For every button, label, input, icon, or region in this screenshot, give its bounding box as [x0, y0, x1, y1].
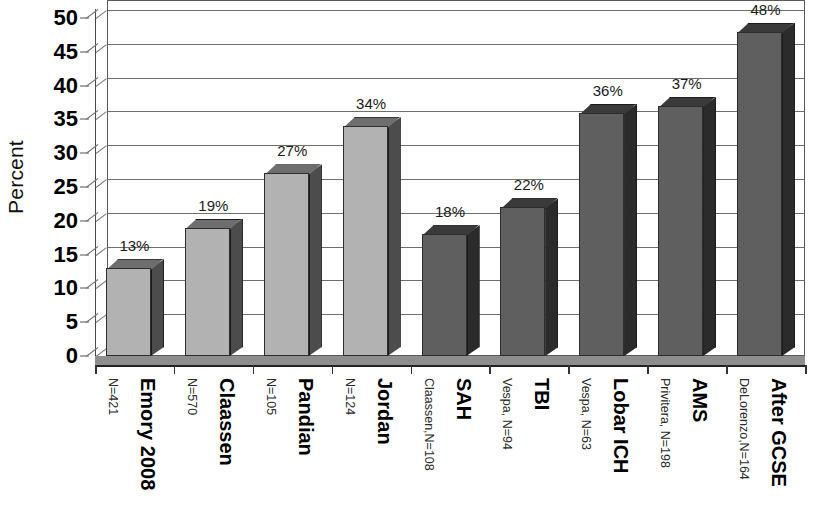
bar-chart: Percent 50454035302520151050 13%19%27%34… [0, 0, 813, 512]
x-category-label-group: N=124Jordan [332, 376, 411, 512]
x-category-label: Lobar ICH [611, 378, 631, 474]
bar [106, 268, 151, 356]
x-category-label: AMS [690, 378, 710, 422]
x-category-label-group: Vespa, N=94TBI [489, 376, 568, 512]
bar-value-label: 13% [94, 237, 175, 254]
x-tick-mark [174, 365, 176, 374]
x-category-label-group: N=421Emory 2008 [95, 376, 174, 512]
x-tick-mark [726, 365, 728, 374]
x-category-label-group: DeLorenzo,N=164After GCSE [726, 376, 805, 512]
y-tick-label: 45 [34, 41, 78, 63]
side-wall-rung [96, 179, 107, 188]
y-tick-label: 25 [34, 176, 78, 198]
side-wall-rung [96, 78, 107, 87]
x-tick-mark [411, 365, 413, 374]
x-category-label: SAH [454, 378, 474, 420]
x-category-label: Jordan [375, 378, 395, 445]
side-wall-rung [96, 112, 107, 121]
x-category-label: Emory 2008 [138, 378, 158, 490]
plot-area: 13%19%27%34%18%22%36%37%48% [95, 9, 805, 365]
bar-front-face [343, 126, 388, 356]
bar [264, 173, 309, 356]
x-category-label-group: Privitera, N=198AMS [647, 376, 726, 512]
x-category-sublabel: Claassen,N=108 [422, 378, 435, 471]
x-category-sublabel: N=570 [185, 378, 198, 415]
bar-front-face [185, 228, 230, 356]
bar [422, 234, 467, 356]
bar-front-face [106, 268, 151, 356]
x-category-label-group: Claassen,N=108SAH [411, 376, 490, 512]
bar [737, 32, 782, 356]
y-tick-label: 5 [34, 311, 78, 333]
x-category-sublabel: DeLorenzo,N=164 [737, 378, 750, 480]
side-wall-rung [96, 213, 107, 222]
bar-side-face [388, 117, 401, 356]
x-tick-mark [332, 365, 334, 374]
y-tick-mark [80, 288, 89, 289]
bar [658, 106, 703, 356]
x-tick-mark [489, 365, 491, 374]
x-tick-mark [253, 365, 255, 374]
bar-side-face [151, 259, 164, 356]
x-category-sublabel: N=421 [106, 378, 119, 415]
x-tick-mark [95, 365, 97, 374]
bar-front-face [422, 234, 467, 356]
x-category-label: TBI [533, 378, 553, 410]
y-tick-label: 35 [34, 108, 78, 130]
bar-front-face [737, 32, 782, 356]
bar-value-label: 27% [252, 142, 333, 159]
side-wall-rung [96, 10, 107, 19]
y-tick-label: 10 [34, 277, 78, 299]
y-axis-title: Percent [4, 117, 28, 237]
y-tick-label: 15 [34, 244, 78, 266]
y-tick-label: 40 [34, 75, 78, 97]
y-tick-label: 50 [34, 7, 78, 29]
y-axis-tick-labels: 50454035302520151050 [30, 0, 78, 512]
x-axis-line [95, 365, 805, 367]
x-tick-mark [647, 365, 649, 374]
bar-side-face [309, 164, 322, 356]
side-wall-rung [96, 145, 107, 154]
x-category-sublabel: N=124 [343, 378, 356, 415]
x-category-label-group: N=570Claassen [174, 376, 253, 512]
bar-front-face [658, 106, 703, 356]
bar-value-label: 36% [567, 82, 648, 99]
bar-value-label: 22% [488, 176, 569, 193]
x-category-sublabel: Vespa, N=63 [579, 378, 592, 450]
y-tick-label: 20 [34, 210, 78, 232]
bar [343, 126, 388, 356]
x-tick-mark [568, 365, 570, 374]
side-wall-rung [96, 44, 107, 53]
bar-value-label: 37% [646, 75, 727, 92]
bar-value-label: 19% [173, 197, 254, 214]
bar-side-face [467, 225, 480, 356]
bar-front-face [264, 173, 309, 356]
x-category-label-group: Vespa, N=63Lobar ICH [568, 376, 647, 512]
bar-value-label: 18% [410, 203, 491, 220]
x-tick-mark [805, 365, 807, 374]
bar-value-label: 34% [331, 95, 412, 112]
x-category-label-group: N=105Pandian [253, 376, 332, 512]
x-category-label: Pandian [296, 378, 316, 456]
bar-front-face [579, 113, 624, 356]
bar-side-face [545, 198, 558, 356]
bar-front-face [500, 207, 545, 356]
x-category-sublabel: Privitera, N=198 [658, 378, 671, 468]
bar [500, 207, 545, 356]
bar-side-face [782, 23, 795, 356]
gridline [108, 10, 804, 11]
bar [185, 228, 230, 356]
bar-side-face [230, 219, 243, 356]
x-category-sublabel: N=105 [264, 378, 277, 415]
x-category-sublabel: Vespa, N=94 [501, 378, 514, 450]
y-tick-mark [80, 119, 89, 120]
bar [579, 113, 624, 356]
bar-value-label: 48% [725, 1, 806, 18]
y-tick-label: 0 [34, 345, 78, 367]
gridline [108, 44, 804, 45]
bar-side-face [703, 97, 716, 356]
y-tick-label: 30 [34, 142, 78, 164]
x-category-label: Claassen [217, 378, 237, 466]
x-category-label: After GCSE [769, 378, 789, 487]
bar-side-face [624, 104, 637, 356]
